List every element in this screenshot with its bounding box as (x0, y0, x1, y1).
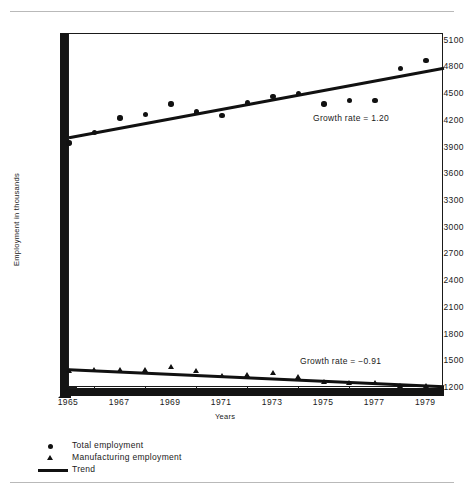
data-point-total-employment (245, 100, 250, 105)
data-point-manufacturing-employment (295, 374, 301, 379)
legend-item: Trend (38, 464, 298, 476)
x-axis-spine (60, 388, 444, 396)
data-point-manufacturing-employment (168, 364, 174, 369)
y-axis-title: Employment in thousands (12, 160, 21, 280)
triangle-marker-icon (38, 452, 66, 464)
x-axis-tick-label: 1973 (250, 397, 294, 407)
plot-lines-svg (68, 33, 443, 387)
data-point-total-employment (423, 58, 428, 63)
data-point-manufacturing-employment (372, 380, 378, 385)
legend-item-label: Trend (72, 464, 95, 474)
data-point-total-employment (66, 140, 71, 145)
legend-item-label: Total employment (72, 440, 143, 450)
circle-glyph (48, 444, 53, 449)
data-point-total-employment (194, 109, 199, 114)
x-axis-tick-label: 1969 (148, 397, 192, 407)
x-axis-tick-label: 1967 (97, 397, 141, 407)
data-point-total-employment (219, 113, 224, 118)
data-point-manufacturing-employment (66, 368, 72, 373)
circle-marker-icon (38, 440, 66, 452)
x-axis-tick-label: 1971 (199, 397, 243, 407)
x-axis-tick-label: 1965 (46, 397, 90, 407)
annotation-total-growth-rate: Growth rate = 1.20 (313, 113, 389, 123)
legend-item-label: Manufacturing employment (72, 452, 182, 462)
plot-area (68, 33, 443, 387)
figure-panel: Employment in thousands Years 1200150018… (0, 0, 464, 490)
data-point-manufacturing-employment (219, 373, 225, 378)
trend-line (69, 370, 444, 387)
data-point-manufacturing-employment (193, 368, 199, 373)
data-point-manufacturing-employment (244, 372, 250, 377)
triangle-glyph (47, 455, 53, 460)
x-axis-tick-label: 1975 (301, 397, 345, 407)
data-point-manufacturing-employment (321, 379, 327, 384)
x-axis-tick-label: 1977 (352, 397, 396, 407)
data-point-total-employment (168, 101, 173, 106)
data-point-manufacturing-employment (91, 367, 97, 372)
data-point-manufacturing-employment (423, 383, 429, 388)
trend-line (69, 68, 444, 137)
data-point-manufacturing-employment (346, 380, 352, 385)
line-glyph (38, 469, 68, 472)
data-point-manufacturing-employment (270, 370, 276, 375)
x-axis-tick-label: 1979 (403, 397, 447, 407)
x-axis-title: Years (215, 412, 235, 421)
legend-item: Total employment (38, 440, 298, 452)
line-marker-icon (38, 464, 66, 476)
data-point-manufacturing-employment (397, 383, 403, 388)
y-axis-tick (69, 387, 77, 389)
data-point-manufacturing-employment (117, 367, 123, 372)
top-divider-rule (10, 11, 454, 12)
data-point-total-employment (117, 115, 122, 120)
annotation-manufacturing-growth-rate: Growth rate = −0.91 (300, 356, 381, 366)
data-point-total-employment (372, 98, 377, 103)
bottom-divider-rule (10, 482, 454, 483)
legend-item: Manufacturing employment (38, 452, 298, 464)
data-point-manufacturing-employment (142, 367, 148, 372)
data-point-total-employment (321, 101, 326, 106)
figure-title (60, 0, 410, 6)
chart-legend: Total employmentManufacturing employment… (38, 440, 298, 476)
